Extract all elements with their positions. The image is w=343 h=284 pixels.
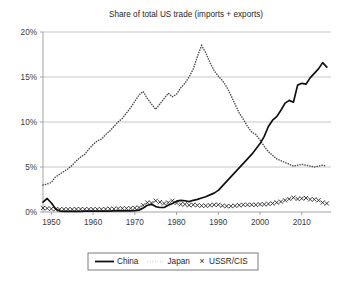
- page-title: Share of total US trade (imports + expor…: [109, 10, 263, 19]
- x-tick-label: 1960: [84, 218, 103, 227]
- legend-item-japan-label: Japan: [168, 257, 191, 266]
- y-tick-label: 15%: [21, 73, 37, 82]
- x-tick-label: 1970: [126, 218, 145, 227]
- legend-item-ussr-cis-x-marker-icon: ×: [200, 256, 205, 266]
- y-tick-label: 5%: [25, 163, 37, 172]
- x-tick-label: 1950: [42, 218, 61, 227]
- chart-legend: ChinaJapan×USSR/CIS: [88, 253, 258, 270]
- y-tick-label: 20%: [21, 28, 37, 37]
- legend-item-china-label: China: [117, 257, 139, 266]
- legend-item-ussr-cis-label: USSR/CIS: [209, 257, 248, 266]
- x-tick-label: 1980: [167, 218, 186, 227]
- x-tick-label: 1990: [209, 218, 228, 227]
- chart-background: [0, 0, 343, 284]
- y-tick-label: 10%: [21, 118, 37, 127]
- x-tick-label: 2000: [251, 218, 270, 227]
- x-tick-label: 2010: [293, 218, 312, 227]
- y-tick-label: 0%: [25, 208, 37, 217]
- trade-share-line-chart: Share of total US trade (imports + expor…: [0, 0, 343, 284]
